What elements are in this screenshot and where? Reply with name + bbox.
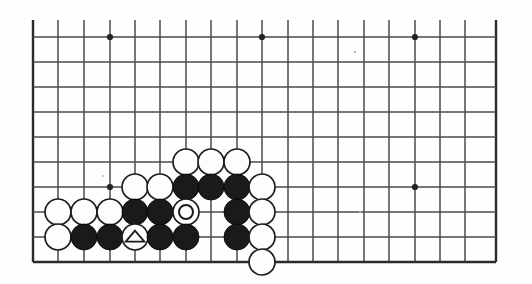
paper-speck-0 xyxy=(354,51,356,53)
stone-white[interactable] xyxy=(97,199,123,225)
black-stone[interactable] xyxy=(147,224,173,250)
white-stone[interactable] xyxy=(224,149,250,175)
white-stone[interactable] xyxy=(45,224,71,250)
stone-black[interactable] xyxy=(71,224,97,250)
stone-black[interactable] xyxy=(147,224,173,250)
white-stone[interactable] xyxy=(173,199,199,225)
black-stone[interactable] xyxy=(71,224,97,250)
star-point-2 xyxy=(412,34,418,40)
white-stone[interactable] xyxy=(122,224,148,250)
white-stone[interactable] xyxy=(249,174,275,200)
go-board-diagram xyxy=(0,0,532,284)
black-stone[interactable] xyxy=(224,224,250,250)
black-stone[interactable] xyxy=(173,224,199,250)
stone-black[interactable] xyxy=(97,224,123,250)
black-stone[interactable] xyxy=(97,224,123,250)
stone-white-circle[interactable] xyxy=(173,199,199,225)
stone-black[interactable] xyxy=(122,199,148,225)
stone-white[interactable] xyxy=(249,249,275,275)
white-stone[interactable] xyxy=(147,174,173,200)
stone-black[interactable] xyxy=(173,224,199,250)
white-stone[interactable] xyxy=(249,224,275,250)
black-stone[interactable] xyxy=(122,199,148,225)
star-point-3 xyxy=(107,184,113,190)
white-stone[interactable] xyxy=(71,199,97,225)
black-stone[interactable] xyxy=(224,174,250,200)
stone-black[interactable] xyxy=(224,174,250,200)
stone-white[interactable] xyxy=(198,149,224,175)
black-stone[interactable] xyxy=(173,174,199,200)
paper-speck-1 xyxy=(102,175,104,177)
white-stone[interactable] xyxy=(173,149,199,175)
stone-black[interactable] xyxy=(173,174,199,200)
paper-speck-3 xyxy=(359,211,361,213)
black-stone[interactable] xyxy=(224,199,250,225)
stone-white[interactable] xyxy=(147,174,173,200)
white-stone[interactable] xyxy=(97,199,123,225)
star-point-1 xyxy=(259,34,265,40)
white-stone[interactable] xyxy=(249,199,275,225)
stone-white[interactable] xyxy=(122,174,148,200)
stone-black[interactable] xyxy=(224,199,250,225)
stone-white[interactable] xyxy=(224,149,250,175)
stone-white-triangle[interactable] xyxy=(122,224,148,250)
white-stone[interactable] xyxy=(249,249,275,275)
stone-white[interactable] xyxy=(249,174,275,200)
go-board-canvas xyxy=(0,0,532,284)
star-point-0 xyxy=(107,34,113,40)
stone-white[interactable] xyxy=(173,149,199,175)
star-point-4 xyxy=(412,184,418,190)
white-stone[interactable] xyxy=(45,199,71,225)
white-stone[interactable] xyxy=(122,174,148,200)
stone-black[interactable] xyxy=(224,224,250,250)
black-stone[interactable] xyxy=(198,174,224,200)
stone-black[interactable] xyxy=(147,199,173,225)
stone-white[interactable] xyxy=(249,199,275,225)
stone-white[interactable] xyxy=(45,224,71,250)
black-stone[interactable] xyxy=(147,199,173,225)
stone-white[interactable] xyxy=(45,199,71,225)
stone-white[interactable] xyxy=(249,224,275,250)
white-stone[interactable] xyxy=(198,149,224,175)
stone-black[interactable] xyxy=(198,174,224,200)
stone-white[interactable] xyxy=(71,199,97,225)
